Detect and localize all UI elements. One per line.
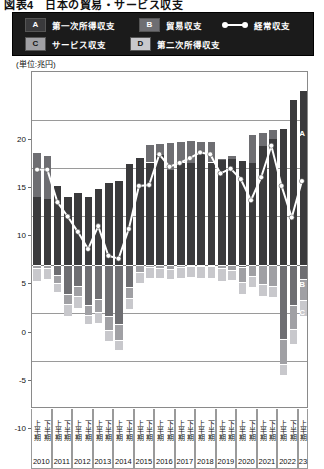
bar-segment-c [54,275,62,283]
bar-segment-a [156,155,164,265]
bar-segment-b [167,142,175,170]
bar-segment-a [105,183,113,265]
legend-item-b: B 貿易収支 [139,18,202,32]
bar-column [300,72,308,407]
x-axis-half-label: 上半期 [299,411,307,449]
x-axis-halves: 上半期下半期 [114,411,133,449]
x-axis-half-label: 上半期 [53,411,62,449]
bar-column [187,72,195,407]
bar-segment-d [105,330,113,341]
bar-segment-c [269,265,277,286]
bar-column [167,72,175,407]
x-axis-half-label: 上半期 [176,411,185,449]
x-axis-halves: 上半期下半期 [237,411,256,449]
x-axis-half-label: 上半期 [217,411,226,449]
x-axis-year-cell: 上半期下半期2013 [93,409,114,469]
x-axis-year-cell: 上半期下半期2019 [216,409,237,469]
x-axis-half-label: 上半期 [237,411,246,449]
bar-segment-d [218,268,226,281]
bar-column [259,72,267,407]
x-axis-half-label: 下半期 [82,411,91,449]
x-axis-year-cell: 上半期下半期2016 [154,409,175,469]
bar-segment-c [126,287,134,299]
bar-segment-a [177,163,185,265]
bar-segment-a [54,186,62,265]
x-axis-half-label: 下半期 [226,411,235,449]
bar-segment-d [177,267,185,278]
bar-segment-d [259,284,267,297]
bar-segment-b [64,265,72,295]
bar-segment-b [115,265,123,325]
x-axis-year-label: 2013 [94,457,113,466]
x-axis-year-label: 2018 [196,457,215,466]
bar-segment-b [249,134,257,164]
x-axis-half-label: 下半期 [103,411,112,449]
bar-segment-d [249,276,257,287]
x-axis-half-label: 下半期 [267,411,276,449]
x-axis-year-cell: 上半期下半期2012 [72,409,93,469]
segment-tag-c: C [299,309,305,317]
x-axis-halves: 上半期 [299,411,307,449]
bar-segment-d [269,286,277,298]
x-axis-halves: 上半期下半期 [94,411,113,449]
legend-label-b: 貿易収支 [166,19,202,31]
bar-segment-d [74,296,82,308]
bar-segment-d [33,268,41,281]
legend-swatch-c: C [25,37,46,51]
y-axis-tick-label: 10 [2,231,26,240]
bar-segment-d [167,269,175,279]
legend-label-a: 第一次所得収支 [52,19,115,31]
bar-segment-c [64,294,72,304]
x-axis-year-label: 2022 [278,457,297,466]
bar-segment-d [115,340,123,351]
y-axis-tick-label: -5 [2,375,26,384]
bar-column [85,72,93,407]
bar-column [269,72,277,407]
x-axis-year-cell: 上半期下半期2010 [31,409,52,469]
x-axis-year-cell: 上半期下半期2015 [134,409,155,469]
x-axis-halves: 上半期下半期 [155,411,174,449]
bar-segment-b [105,265,113,316]
x-axis-year-label: 2015 [135,457,154,466]
bar-segment-b [208,141,216,162]
bar-column [239,72,247,407]
x-axis-half-label: 下半期 [185,411,194,449]
x-axis-halves: 上半期下半期 [278,411,297,449]
x-axis-halves: 上半期下半期 [53,411,72,449]
x-axis-half-label: 下半期 [41,411,50,449]
bar-segment-b [126,265,134,287]
bar-segment-c [249,265,257,277]
bar-segment-d [85,315,93,325]
legend-label-line: 経常収支 [254,19,290,31]
x-axis-half-label: 上半期 [278,411,287,449]
x-axis-year-cell: 上半期下半期2022 [277,409,298,469]
x-axis-half-label: 上半期 [155,411,164,449]
bar-segment-b [197,141,205,152]
legend-label-d: 第二次所得収支 [157,38,220,50]
bar-segment-a [95,189,103,265]
bar-segment-a [249,163,257,264]
chart-area: 20151050-5-10-15 ABCD 上半期下半期2010上半期下半期20… [0,68,324,469]
bar-segment-a [239,161,247,265]
bar-segment-a [218,160,226,265]
x-axis-half-label: 上半期 [73,411,82,449]
bar-segment-d [95,312,103,324]
bar-segment-b [300,265,308,279]
bar-segment-b [156,143,164,155]
x-axis-halves: 上半期下半期 [135,411,154,449]
figure-title-strip: 図表4 日本の貿易・サービス収支 [0,0,324,12]
bar-column [115,72,123,407]
bar-segment-a [208,163,216,265]
y-axis-tick-label: 5 [2,279,26,288]
bar-segment-c [280,339,288,364]
bar-segment-a [290,100,298,265]
bar-segment-a [167,170,175,264]
bar-segment-d [44,268,52,279]
bar-segment-d [187,266,195,277]
bar-segment-d [156,268,164,278]
bar-segment-d [64,304,72,316]
bar-segment-b [54,265,62,276]
bar-segment-c [95,299,103,312]
x-axis-half-label: 下半期 [164,411,173,449]
bar-segment-b [228,155,236,159]
